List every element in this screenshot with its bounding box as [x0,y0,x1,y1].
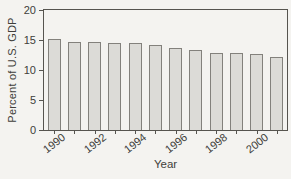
y-tick-label-20: 20 [12,4,36,17]
y-tick-label-15: 15 [12,34,36,47]
bar-1999 [230,53,243,130]
bar-1994 [129,43,142,130]
bar-1993 [108,43,121,130]
y-tick-label-0: 0 [12,124,36,137]
bar-1991 [68,42,81,130]
y-axis-tick [39,70,43,71]
y-axis-tick [39,100,43,101]
bar-1995 [149,45,162,130]
x-axis-tick [277,130,278,134]
bar-1996 [169,48,182,130]
x-axis-tick [236,130,237,134]
y-axis-tick [39,10,43,11]
bar-1998 [210,53,223,130]
x-axis-tick [115,130,116,134]
bar-1990 [48,39,61,130]
y-tick-label-5: 5 [12,94,36,107]
x-axis-tick [155,130,156,134]
chart-figure: Percent of U.S. GDP 05101520199019921994… [0,0,291,179]
x-axis-tick [196,130,197,134]
y-axis-tick [39,130,43,131]
bar-2000 [250,54,263,130]
bar-2001 [270,57,283,130]
bar-1997 [189,50,202,130]
bar-1992 [88,42,101,130]
plot-area: Percent of U.S. GDP 05101520199019921994… [43,9,288,131]
y-axis-tick [39,40,43,41]
y-tick-label-10: 10 [12,64,36,77]
x-axis-title: Year [43,158,288,170]
x-axis-tick [74,130,75,134]
